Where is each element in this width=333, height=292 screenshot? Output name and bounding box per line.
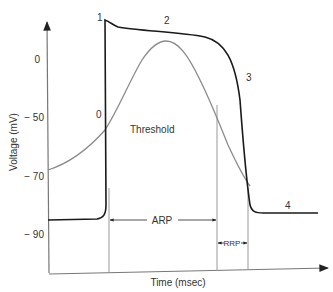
y-tick-minus-70: − 70 [24, 171, 44, 182]
y-tick-minus-90: − 90 [24, 229, 44, 240]
x-axis-label: Time (msec) [150, 277, 205, 288]
phase-0-label: 0 [96, 109, 102, 120]
y-axis-label: Voltage (mV) [8, 113, 19, 171]
phase-1-label: 1 [97, 12, 103, 23]
y-tick-minus-50: − 50 [24, 112, 44, 123]
y-axis [47, 22, 49, 273]
x-axis [49, 268, 328, 274]
phase-2-label: 2 [164, 15, 170, 26]
phase-3-label: 3 [246, 72, 252, 83]
rrp-label: RRP [224, 239, 241, 248]
action-potential-diagram: 0 − 50 − 70 − 90 Voltage (mV) Time (msec… [0, 0, 333, 292]
arp-label: ARP [152, 215, 173, 226]
phase-4-label: 4 [285, 200, 291, 211]
threshold-label: Threshold [130, 124, 174, 135]
threshold-curve [48, 41, 250, 186]
y-tick-0: 0 [34, 54, 40, 65]
action-potential-curve [48, 20, 318, 220]
